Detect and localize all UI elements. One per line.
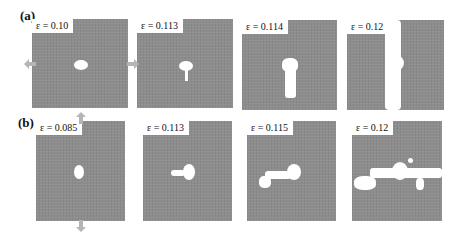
strain-label: ε = 0.10 [32, 19, 73, 33]
crack [354, 176, 376, 190]
strain-label: ε = 0.114 [242, 20, 288, 34]
arrow-up-icon [76, 112, 86, 124]
arrow-down-icon [76, 220, 86, 232]
void [386, 55, 404, 71]
arrow-right-icon [127, 59, 139, 69]
strain-label: ε = 0.12 [352, 121, 393, 135]
panel-a-2: ε = 0.113 [137, 19, 233, 108]
strain-label: ε = 0.113 [143, 121, 189, 135]
strain-label: ε = 0.115 [247, 121, 293, 135]
panel-b-1: ε = 0.085 [36, 121, 125, 221]
strain-label: ε = 0.12 [347, 20, 388, 34]
panel-b-2: ε = 0.113 [143, 121, 232, 221]
void [74, 60, 88, 70]
crack [285, 68, 296, 98]
panel-b-3: ε = 0.115 [247, 121, 336, 221]
void [74, 165, 84, 179]
crack [408, 158, 413, 163]
crack [370, 168, 442, 178]
crack [185, 69, 188, 81]
crack [259, 176, 271, 188]
strain-label: ε = 0.113 [137, 19, 183, 33]
panel-a-1: ε = 0.10 [32, 19, 128, 108]
crack [416, 178, 424, 190]
crack [171, 170, 185, 176]
panel-b-4: ε = 0.12 [352, 121, 442, 221]
row-label-b: (b) [18, 115, 34, 131]
panel-a-4: ε = 0.12 [347, 20, 444, 110]
arrow-left-icon [24, 59, 36, 69]
panel-a-3: ε = 0.114 [242, 20, 337, 110]
